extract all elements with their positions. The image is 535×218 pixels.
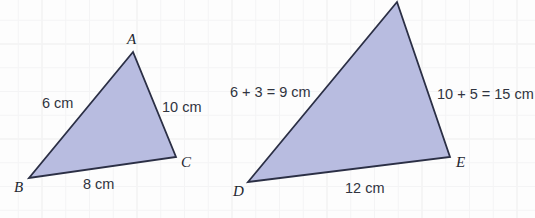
side-label-df: 6 + 3 = 9 cm xyxy=(230,85,311,100)
side-label-fe: 10 + 5 = 15 cm xyxy=(437,87,534,102)
vertex-label-d: D xyxy=(233,184,244,199)
vertex-label-b: B xyxy=(14,180,23,195)
geometry-figure: A B C 6 cm 10 cm 8 cm F D E 6 + 3 = 9 cm… xyxy=(0,0,535,218)
side-label-de: 12 cm xyxy=(345,181,385,196)
vertex-label-a: A xyxy=(127,32,136,47)
side-label-ab: 6 cm xyxy=(42,96,73,111)
vertex-label-e: E xyxy=(456,155,465,170)
triangle-abc-shape xyxy=(29,52,176,178)
side-label-ac: 10 cm xyxy=(162,100,202,115)
vertex-label-f: F xyxy=(390,0,399,2)
vertex-label-c: C xyxy=(181,155,191,170)
side-label-bc: 8 cm xyxy=(83,177,114,192)
triangles-canvas xyxy=(0,0,535,218)
